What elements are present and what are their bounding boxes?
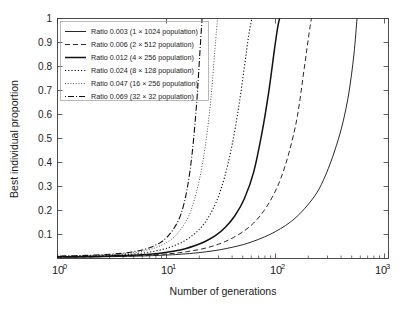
legend-item-label: Ratio 0.006 (2 × 512 population) bbox=[91, 40, 194, 49]
y-tick-label: 0.2 bbox=[38, 205, 52, 216]
x-tick-exponent: 2 bbox=[281, 262, 285, 271]
y-tick-label: 0.5 bbox=[38, 133, 52, 144]
y-axis: 1 0.9 0.8 0.7 0.6 0.5 0.4 0.3 0.2 0.1 Be… bbox=[8, 13, 389, 240]
x-tick-label: 10 3 bbox=[375, 262, 390, 276]
legend-item-label: Ratio 0.003 (1 × 1024 population) bbox=[91, 27, 198, 36]
x-axis-title: Number of generations bbox=[170, 285, 277, 297]
chart-figure: 1 0.9 0.8 0.7 0.6 0.5 0.4 0.3 0.2 0.1 Be… bbox=[0, 0, 402, 321]
y-tick-label: 0.7 bbox=[38, 85, 52, 96]
legend-item: Ratio 0.003 (1 × 1024 population) bbox=[65, 27, 198, 36]
x-tick-label: 10 0 bbox=[52, 262, 67, 276]
legend-item: Ratio 0.012 (4 × 256 population) bbox=[65, 53, 194, 62]
legend-item-label: Ratio 0.012 (4 × 256 population) bbox=[91, 53, 194, 62]
x-tick-label: 10 1 bbox=[161, 262, 176, 276]
x-tick-exponent: 0 bbox=[63, 262, 67, 271]
legend-item: Ratio 0.024 (8 × 128 population) bbox=[65, 66, 194, 75]
chart-svg: 1 0.9 0.8 0.7 0.6 0.5 0.4 0.3 0.2 0.1 Be… bbox=[0, 0, 402, 321]
y-tick-label: 0.6 bbox=[38, 109, 52, 120]
legend-item: Ratio 0.006 (2 × 512 population) bbox=[65, 40, 194, 49]
y-tick-label: 0.3 bbox=[38, 181, 52, 192]
legend-item-label: Ratio 0.069 (32 × 32 population) bbox=[91, 92, 194, 101]
x-tick-label: 10 2 bbox=[270, 262, 285, 276]
y-tick-label: 0.8 bbox=[38, 61, 52, 72]
legend-item: Ratio 0.069 (32 × 32 population) bbox=[65, 92, 194, 101]
y-axis-title: Best individual proportion bbox=[8, 80, 20, 198]
x-tick-exponent: 3 bbox=[386, 262, 390, 271]
legend-item-label: Ratio 0.024 (8 × 128 population) bbox=[91, 66, 194, 75]
y-tick-label: 0.1 bbox=[38, 229, 52, 240]
y-tick-label: 0.4 bbox=[38, 157, 52, 168]
legend-item: Ratio 0.047 (16 × 256 population) bbox=[65, 79, 198, 88]
y-tick-label: 0.9 bbox=[38, 37, 52, 48]
legend-item-label: Ratio 0.047 (16 × 256 population) bbox=[91, 79, 198, 88]
x-tick-exponent: 1 bbox=[172, 262, 176, 271]
chart-legend: Ratio 0.003 (1 × 1024 population) Ratio … bbox=[61, 22, 209, 102]
y-tick-label: 1 bbox=[46, 13, 52, 24]
